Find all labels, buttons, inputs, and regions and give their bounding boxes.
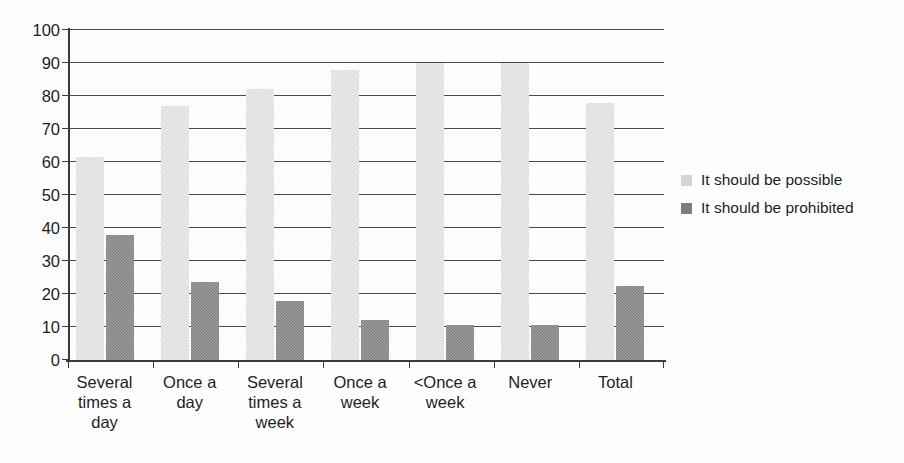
chart-legend: It should be possibleIt should be prohib… — [681, 166, 896, 222]
y-tick-label-60: 60 — [14, 154, 60, 171]
legend-label: It should be possible — [701, 172, 842, 188]
y-tick-label-50: 50 — [14, 187, 60, 204]
y-axis-line — [68, 28, 70, 362]
x-category-label: Several times a week — [232, 372, 317, 432]
bar-possible — [246, 89, 274, 360]
x-category-label: Once a day — [147, 372, 232, 412]
bar-prohibited — [446, 325, 474, 360]
x-tick-mark — [494, 361, 495, 368]
y-tick-label-40: 40 — [14, 220, 60, 237]
y-tick-mark-40 — [62, 227, 68, 228]
x-tick-mark — [663, 361, 664, 368]
bar-group — [409, 30, 494, 360]
bar-group — [579, 30, 664, 360]
x-axis-tick-marks — [68, 361, 664, 369]
x-category-label: Total — [573, 372, 658, 392]
bar-possible — [161, 106, 189, 360]
x-tick-mark — [153, 361, 154, 368]
bar-prohibited — [191, 282, 219, 360]
y-tick-label-70: 70 — [14, 121, 60, 138]
legend-item: It should be possible — [681, 166, 896, 194]
bar-group — [153, 30, 238, 360]
y-tick-label-30: 30 — [14, 253, 60, 270]
legend-label: It should be prohibited — [701, 200, 854, 216]
bar-group — [494, 30, 579, 360]
bar-possible — [331, 70, 359, 360]
bar-possible — [416, 63, 444, 360]
bar-prohibited — [361, 320, 389, 360]
legend-swatch-icon — [681, 203, 692, 214]
bar-prohibited — [616, 286, 644, 360]
y-tick-label-80: 80 — [14, 88, 60, 105]
y-tick-mark-90 — [62, 62, 68, 63]
x-axis-category-labels: Several times a dayOnce a daySeveral tim… — [68, 372, 664, 458]
y-tick-mark-20 — [62, 293, 68, 294]
x-category-label: <Once a week — [403, 372, 488, 412]
bar-possible — [76, 157, 104, 360]
y-tick-label-20: 20 — [14, 286, 60, 303]
x-tick-mark — [238, 361, 239, 368]
y-tick-label-100: 100 — [14, 22, 60, 39]
legend-swatch-icon — [681, 175, 692, 186]
y-tick-mark-10 — [62, 326, 68, 327]
bar-possible — [586, 103, 614, 360]
y-tick-mark-50 — [62, 194, 68, 195]
x-category-label: Once a week — [317, 372, 402, 412]
y-tick-mark-80 — [62, 95, 68, 96]
plot-area — [68, 30, 664, 360]
y-axis-tick-labels: 1009080706050403020100 — [0, 30, 60, 360]
x-tick-mark — [409, 361, 410, 368]
bar-prohibited — [276, 301, 304, 360]
y-tick-mark-60 — [62, 161, 68, 162]
bar-group — [238, 30, 323, 360]
bar-possible — [501, 63, 529, 360]
y-tick-mark-100 — [62, 29, 68, 30]
bar-chart-figure: 1009080706050403020100 Several times a d… — [0, 0, 904, 463]
x-tick-mark — [323, 361, 324, 368]
legend-item: It should be prohibited — [681, 194, 896, 222]
x-tick-mark — [579, 361, 580, 368]
x-tick-mark — [68, 361, 69, 368]
y-tick-mark-0 — [62, 359, 68, 360]
x-category-label: Several times a day — [62, 372, 147, 432]
y-tick-mark-70 — [62, 128, 68, 129]
y-tick-label-10: 10 — [14, 319, 60, 336]
bar-prohibited — [106, 235, 134, 360]
y-tick-label-0: 0 — [14, 352, 60, 369]
bar-group — [68, 30, 153, 360]
y-tick-mark-30 — [62, 260, 68, 261]
x-category-label: Never — [488, 372, 573, 392]
bar-group — [323, 30, 408, 360]
bar-prohibited — [531, 325, 559, 360]
y-tick-label-90: 90 — [14, 55, 60, 72]
